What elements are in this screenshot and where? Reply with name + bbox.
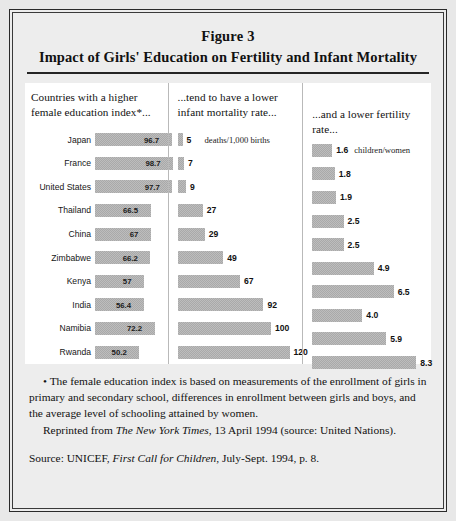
bar <box>312 238 343 251</box>
bar-value-label: 2.5 <box>348 240 360 250</box>
bar-row: 29 <box>178 222 299 246</box>
reprint-line: Reprinted from The New York Times, 13 Ap… <box>29 421 427 438</box>
bar-track: 100 <box>178 322 299 335</box>
bar-row: Thailand66.5 <box>31 199 164 223</box>
country-label: Kenya <box>31 276 95 286</box>
column-1-header-line2: female education index*... <box>31 105 164 120</box>
bar-rows-mortality: 5deaths/1,000 births792729496792100120 <box>178 126 299 364</box>
reprint-suffix: , 13 April 1994 (source: United Nations)… <box>209 424 396 436</box>
unit-note: children/women <box>354 145 410 155</box>
bar-row: 100 <box>178 317 299 341</box>
bar-value-label: 67 <box>130 230 139 239</box>
bar <box>178 133 183 146</box>
bar-row: 2.5 <box>312 233 427 257</box>
bar-rows-fertility: 1.6children/women1.81.92.52.54.96.54.05.… <box>312 136 427 374</box>
bar-track: 50.2 <box>95 346 164 359</box>
bar-value-label: 96.7 <box>144 135 159 144</box>
column-3-header: ...and a lower fertility rate... <box>312 90 427 137</box>
bar-track: 2.5 <box>312 238 427 251</box>
bar-row: China67 <box>31 222 164 246</box>
bar-value-label: 8.3 <box>420 358 432 368</box>
bar <box>178 298 264 311</box>
bar <box>312 191 336 204</box>
bar-row: 1.8 <box>312 162 427 186</box>
bar <box>312 356 416 369</box>
bar-track: 97.7 <box>95 180 164 193</box>
country-label: India <box>31 300 95 310</box>
bar-value-label: 92 <box>267 300 277 310</box>
bar <box>95 228 151 241</box>
bar <box>95 180 172 193</box>
bar-track: 120 <box>178 346 299 359</box>
bar-track: 1.6children/women <box>312 144 427 157</box>
bar-row: Zimbabwe66.2 <box>31 246 164 270</box>
bar-track: 29 <box>178 228 299 241</box>
bar-value-label: 1.8 <box>339 169 351 179</box>
bar <box>178 180 186 193</box>
bar-value-label: 97.7 <box>145 182 160 191</box>
unit-note: deaths/1,000 births <box>205 135 270 145</box>
bar <box>178 346 290 359</box>
column-1-header-line1: Countries with a higher <box>31 90 164 105</box>
column-fertility: ...and a lower fertility rate... 1.6chil… <box>302 83 431 364</box>
source-publication: First Call for Children <box>113 452 217 464</box>
bar <box>178 322 271 335</box>
bar-value-label: 1.6 <box>336 145 348 155</box>
column-2-header-line2: infant mortality rate... <box>178 105 299 120</box>
country-label: France <box>31 158 95 168</box>
bar-value-label: 4.9 <box>378 263 390 273</box>
bar <box>95 322 155 335</box>
bar-row: 2.5 <box>312 209 427 233</box>
bar-value-label: 29 <box>209 229 219 239</box>
bar-value-label: 98.7 <box>145 159 160 168</box>
bar-value-label: 9 <box>190 182 195 192</box>
bar-track: 1.8 <box>312 167 427 180</box>
bar-track: 49 <box>178 251 299 264</box>
bar-rows-education: Japan96.7France98.7United States97.7Thai… <box>31 126 164 364</box>
title-divider <box>27 72 429 74</box>
bar-row: Rwanda50.2 <box>31 340 164 364</box>
bar-track: 67 <box>95 228 164 241</box>
bar-row: 6.5 <box>312 280 427 304</box>
bar <box>312 262 373 275</box>
bar-track: 8.3 <box>312 356 427 369</box>
source-line: Source: UNICEF, First Call for Children,… <box>25 452 431 464</box>
bar-track: 67 <box>178 275 299 288</box>
bar-value-label: 100 <box>275 323 289 333</box>
bar-track: 7 <box>178 157 299 170</box>
reprint-publication: The New York Times <box>116 424 209 436</box>
column-education-index: Countries with a higher female education… <box>25 83 168 364</box>
bar-value-label: 56.4 <box>116 300 131 309</box>
bar-row: India56.4 <box>31 293 164 317</box>
bar-value-label: 72.2 <box>127 324 142 333</box>
country-label: Thailand <box>31 205 95 215</box>
bar <box>312 309 362 322</box>
bar-track: 5deaths/1,000 births <box>178 133 299 146</box>
bar <box>312 215 343 228</box>
bar-row: 1.9 <box>312 186 427 210</box>
bar-value-label: 7 <box>188 158 193 168</box>
bar <box>312 332 386 345</box>
reprint-prefix: Reprinted from <box>43 424 116 436</box>
figure-label: Figure 3 <box>25 27 431 47</box>
country-label: Japan <box>31 135 95 145</box>
column-2-header: ...tend to have a lower infant mortality… <box>178 90 299 126</box>
bar <box>178 275 241 288</box>
bar <box>95 157 173 170</box>
bar-value-label: 57 <box>123 277 132 286</box>
bar-track: 9 <box>178 180 299 193</box>
bar-track: 5.9 <box>312 332 427 345</box>
bar-row: Namibia72.2 <box>31 317 164 341</box>
figure-inner: Figure 3 Impact of Girls' Education on F… <box>12 12 444 509</box>
bar-value-label: 67 <box>244 276 254 286</box>
bar-row: France98.7 <box>31 151 164 175</box>
bar <box>312 285 393 298</box>
bar-row: United States97.7 <box>31 175 164 199</box>
bar-value-label: 66.5 <box>123 206 138 215</box>
bar-row: 5deaths/1,000 births <box>178 128 299 152</box>
country-label: Zimbabwe <box>31 253 95 263</box>
bar <box>312 144 332 157</box>
bar-row: 9 <box>178 175 299 199</box>
bar-value-label: 27 <box>207 205 217 215</box>
column-2-header-line1: ...tend to have a lower <box>178 90 299 105</box>
